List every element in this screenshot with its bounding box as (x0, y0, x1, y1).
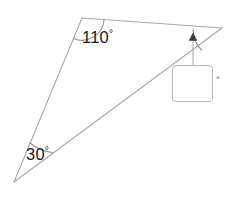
top-angle-value: 110 (82, 28, 109, 46)
top-angle-label: 110° (82, 29, 113, 46)
answer-degree-symbol: ° (216, 76, 220, 85)
answer-leader-arrowhead (189, 33, 197, 40)
left-angle-value: 30 (26, 145, 45, 163)
left-angle-degree-symbol: ° (45, 145, 49, 156)
left-angle-label: 30° (26, 146, 49, 163)
geometry-figure: 110° 30° ° (0, 0, 240, 198)
top-angle-degree-symbol: ° (109, 28, 113, 39)
unknown-angle-input[interactable] (172, 65, 213, 102)
